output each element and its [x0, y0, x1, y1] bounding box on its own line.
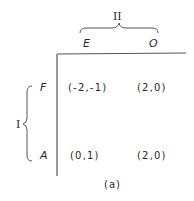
left-brace-icon [23, 86, 32, 161]
row-strategy-a: A [40, 150, 48, 161]
payoff-a-e: (0,1) [70, 151, 100, 161]
player-i-label: I [16, 119, 20, 130]
row-strategy-f: F [40, 82, 46, 93]
column-strategy-o: O [149, 38, 158, 49]
column-strategy-e: E [83, 38, 90, 49]
matrix-lines [0, 0, 194, 201]
figure-caption: (a) [104, 180, 121, 190]
horizontal-rule [57, 53, 186, 54]
payoff-f-e: (-2,-1) [68, 83, 107, 93]
payoff-f-o: (2,0) [137, 83, 167, 93]
player-ii-label: II [113, 11, 122, 22]
top-brace-icon [80, 23, 158, 33]
payoff-a-o: (2,0) [137, 151, 167, 161]
